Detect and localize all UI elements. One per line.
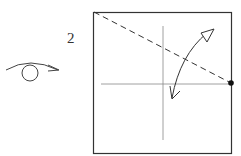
turn-over-circle — [22, 65, 38, 81]
fold-arc — [172, 33, 207, 98]
closed-arrowhead — [170, 86, 180, 99]
turn-over-icon — [6, 63, 59, 81]
open-arrowhead — [201, 29, 214, 42]
valley-fold-line — [94, 12, 231, 83]
origami-diagram — [0, 0, 241, 156]
reference-dot — [228, 80, 234, 86]
turn-over-arrowhead — [48, 65, 59, 71]
fold-unfold-icon — [170, 29, 214, 99]
